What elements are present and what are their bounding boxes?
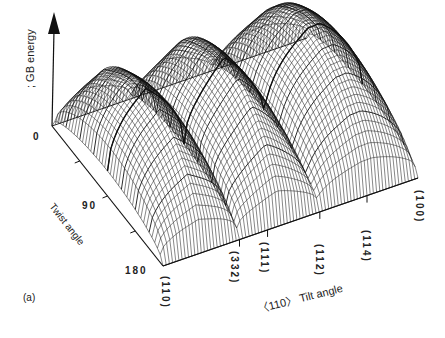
tilt-tick-114: (114) [361, 230, 372, 263]
energy-surface [52, 3, 418, 266]
z-axis-label: ; GB energy [24, 29, 36, 88]
twist-tick-90: 90 [82, 200, 97, 211]
panel-label: (a) [23, 292, 35, 303]
tilt-tick-112: (112) [314, 244, 325, 277]
tilt-tick-100: (100) [414, 190, 425, 223]
z-axis [52, 30, 54, 126]
twist-tick-180: 180 [125, 265, 148, 276]
tilt-tick-110: (110) [160, 276, 171, 309]
z-axis-arrow-icon [48, 12, 60, 34]
z-origin-label: 0 [33, 131, 41, 142]
tilt-tick-332: (332) [229, 251, 240, 284]
surface-plot [0, 0, 445, 338]
tilt-tick-111: (111) [259, 242, 270, 274]
